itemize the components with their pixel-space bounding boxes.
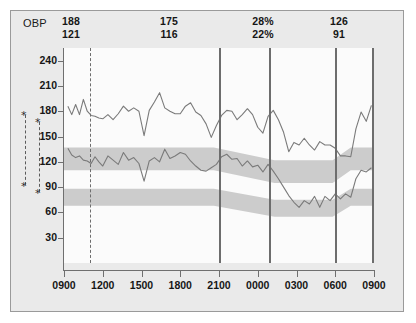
x-axis-tick-1800-3 — [180, 271, 181, 277]
end-marker — [372, 48, 374, 263]
x-axis-tick-0900-8 — [374, 271, 375, 277]
y-axis-label-180: 180 — [17, 104, 57, 116]
y-axis-label-120: 120 — [17, 155, 57, 167]
x-axis-label-1200-1: 1200 — [81, 279, 125, 291]
y-axis-label-240: 240 — [17, 54, 57, 66]
medication-marker — [90, 48, 91, 263]
y-axis-label-150: 150 — [17, 130, 57, 142]
night-start-marker — [219, 48, 221, 263]
y-axis-label-210: 210 — [17, 79, 57, 91]
y-axis-label-30: 30 — [17, 231, 57, 243]
plot-area — [64, 48, 374, 263]
x-axis-label-0300-6: 0300 — [275, 279, 319, 291]
x-axis-label-1800-3: 1800 — [158, 279, 202, 291]
plot-wrapper: 240210180150120906030 090012001500180021… — [11, 11, 405, 313]
chart-panel-background: OBP 188 121 175 116 28% 22% 126 91 — [11, 11, 403, 311]
x-axis-tick-0000-5 — [258, 271, 259, 277]
x-axis-label-1500-2: 1500 — [120, 279, 164, 291]
x-axis-tick-2100-4 — [219, 271, 220, 277]
x-axis-label-0900-8: 0900 — [352, 279, 396, 291]
x-axis-label-0000-5: 0000 — [236, 279, 280, 291]
x-axis-label-2100-4: 2100 — [197, 279, 241, 291]
chart-panel: OBP 188 121 175 116 28% 22% 126 91 — [10, 10, 404, 312]
x-axis-tick-0900-0 — [64, 271, 65, 277]
y-axis-label-60: 60 — [17, 205, 57, 217]
sleep-marker — [269, 48, 271, 263]
x-axis-tick-0600-7 — [335, 271, 336, 277]
x-axis-label-0600-7: 0600 — [313, 279, 357, 291]
wake-marker — [335, 48, 337, 263]
y-axis-label-90: 90 — [17, 180, 57, 192]
x-axis-tick-1200-1 — [103, 271, 104, 277]
abpm-chart-figure: OBP 188 121 175 116 28% 22% 126 91 — [0, 0, 416, 323]
x-axis-label-0900-0: 0900 — [42, 279, 86, 291]
x-axis-tick-0300-6 — [297, 271, 298, 277]
x-axis-tick-1500-2 — [142, 271, 143, 277]
